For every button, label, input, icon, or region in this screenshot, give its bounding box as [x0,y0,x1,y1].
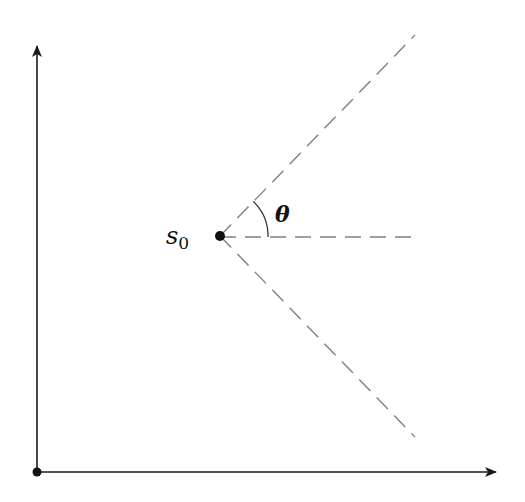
lower-dashed-ray [220,236,415,437]
upper-dashed-ray [220,35,415,236]
angle-label-theta: θ [275,201,290,227]
point-s0 [215,231,225,241]
point-label-subscript: 0 [178,233,189,253]
angle-arc [253,202,268,238]
point-label-s0: s0 [166,222,189,253]
origin-point [33,468,42,477]
diagram-canvas: s0 θ [0,0,525,502]
